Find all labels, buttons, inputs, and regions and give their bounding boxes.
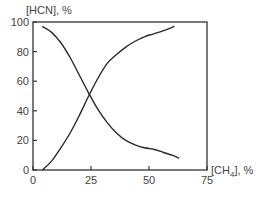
plot-border <box>33 22 207 170</box>
x-tick-label: 25 <box>85 174 97 186</box>
y-tick-label: 100 <box>11 16 29 28</box>
axis-ticks: 0204060801000255075 <box>11 16 213 186</box>
y-tick-label: 20 <box>17 134 29 146</box>
series-line-decreasing <box>42 26 179 158</box>
y-axis-title: [HCN], % <box>26 4 72 16</box>
data-series <box>42 26 179 170</box>
x-tick-label: 0 <box>30 174 36 186</box>
y-tick-label: 0 <box>23 164 29 176</box>
chart: 0204060801000255075 [HCN], % [CH4], % <box>0 0 256 198</box>
y-tick-label: 40 <box>17 105 29 117</box>
y-tick-label: 80 <box>17 46 29 58</box>
x-tick-label: 50 <box>143 174 155 186</box>
plot-frame <box>33 22 207 170</box>
x-axis-title: [CH4], % <box>211 164 254 179</box>
y-tick-label: 60 <box>17 75 29 87</box>
series-line-increasing <box>42 26 174 170</box>
